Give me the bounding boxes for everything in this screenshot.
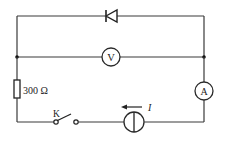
- switch-label: K: [53, 109, 60, 119]
- current-label: I: [147, 102, 152, 113]
- current-arrow-icon: [121, 105, 142, 110]
- voltmeter-symbol: V: [107, 52, 115, 63]
- resistor-label: 300 Ω: [23, 85, 48, 96]
- diode-icon: [106, 10, 117, 22]
- current-source-icon: [124, 112, 144, 132]
- ammeter-symbol: A: [200, 86, 208, 97]
- middle-branch: V: [17, 48, 204, 66]
- circuit-diagram: V 300 Ω A K I: [0, 0, 227, 141]
- voltmeter-icon: V: [102, 48, 120, 66]
- top-branch: [17, 10, 204, 22]
- resistor-icon: [14, 80, 20, 98]
- ammeter-icon: A: [195, 82, 213, 100]
